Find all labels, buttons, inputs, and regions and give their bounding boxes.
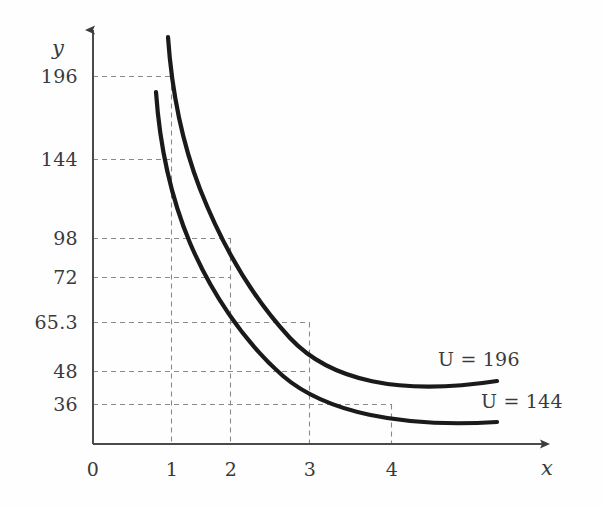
- chart-figure: 196 144 98 72 65.3 48 36 0 1 2 3 4 y x U…: [0, 0, 604, 508]
- y-axis-label: y: [52, 36, 64, 60]
- x-tick-label-4: 4: [386, 458, 398, 480]
- y-tick-label-144: 144: [18, 148, 78, 170]
- y-tick-label-98: 98: [18, 227, 78, 249]
- x-tick-label-3: 3: [304, 458, 316, 480]
- y-tick-label-196: 196: [18, 65, 78, 87]
- curve-label-u-144: U = 144: [481, 390, 563, 412]
- curve-u-144: [156, 92, 497, 423]
- gridlines-horizontal: [93, 77, 392, 405]
- chart-canvas: [0, 0, 604, 508]
- x-tick-label-0: 0: [87, 458, 99, 480]
- y-tick-label-36: 36: [18, 393, 78, 415]
- y-tick-label-48: 48: [18, 360, 78, 382]
- gridlines-vertical: [172, 77, 392, 445]
- y-tick-label-65-3: 65.3: [8, 311, 78, 333]
- x-axis-label: x: [541, 456, 553, 480]
- curve-label-u-196: U = 196: [438, 348, 520, 370]
- curve-u-196: [168, 37, 497, 387]
- x-tick-label-1: 1: [166, 458, 178, 480]
- y-tick-label-72: 72: [18, 266, 78, 288]
- x-tick-label-2: 2: [225, 458, 237, 480]
